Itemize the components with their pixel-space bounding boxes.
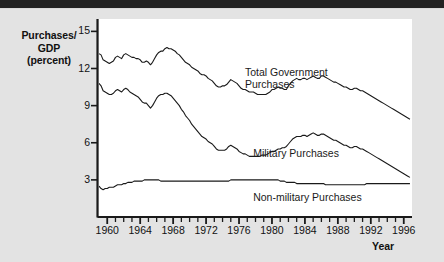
series-line: [99, 180, 410, 190]
y-tick-label: 9: [56, 99, 90, 111]
y-tick-label: 6: [56, 136, 90, 148]
x-axis-tick-labels: 1960196419681972197619801984198819921996: [0, 224, 444, 240]
series-line: [99, 83, 410, 177]
x-axis-title: Year: [372, 240, 394, 252]
figure-page: Purchases/ GDP (percent) 3691215 1960196…: [0, 0, 444, 262]
series-lines: [99, 19, 412, 217]
non-military-purchases-label: Non-military Purchases: [253, 191, 362, 203]
x-tick-label: 1996: [384, 224, 424, 236]
y-tick-label: 12: [56, 62, 90, 74]
y-tick-label: 3: [56, 173, 90, 185]
y-tick-label: 15: [56, 24, 90, 36]
y-axis-tick-labels: 3691215: [56, 0, 90, 262]
military-purchases-label: Military Purchases: [253, 147, 339, 159]
total-government-purchases-label: Total Government Purchases: [245, 66, 328, 90]
plot-area: [99, 19, 412, 217]
